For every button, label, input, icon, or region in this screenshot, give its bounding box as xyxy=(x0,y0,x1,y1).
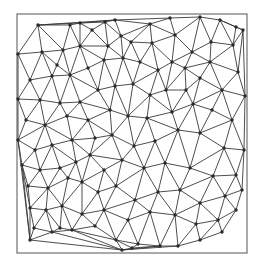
mesh-edge xyxy=(67,116,88,120)
mesh-vertex xyxy=(126,114,129,117)
mesh-edge xyxy=(60,228,72,230)
mesh-edge xyxy=(172,104,193,112)
mesh-edge xyxy=(35,150,40,170)
mesh-vertex xyxy=(198,131,201,134)
mesh-vertex xyxy=(231,43,234,46)
mesh-edge xyxy=(133,84,150,95)
mesh-edge xyxy=(35,145,52,150)
mesh-vertex xyxy=(32,226,35,229)
mesh-vertex xyxy=(78,44,81,47)
mesh-vertex xyxy=(170,60,173,63)
mesh-vertex xyxy=(28,78,31,81)
mesh-edge xyxy=(22,165,40,170)
mesh-edge xyxy=(30,228,34,240)
mesh-vertex xyxy=(60,204,63,207)
mesh-edge xyxy=(236,190,242,210)
mesh-edge xyxy=(115,84,133,86)
mesh-edge xyxy=(76,162,82,182)
mesh-edge xyxy=(193,90,222,104)
mesh-vertex xyxy=(68,73,71,76)
mesh-edge xyxy=(193,78,200,104)
mesh-edge xyxy=(30,232,52,240)
mesh-edge xyxy=(210,45,233,62)
mesh-edge xyxy=(222,90,245,96)
mesh-edge xyxy=(128,212,150,220)
mesh-edge xyxy=(178,240,200,246)
mesh-edge xyxy=(46,188,48,210)
mesh-vertex xyxy=(184,88,187,91)
mesh-edge xyxy=(18,120,26,140)
mesh-edge xyxy=(104,160,122,170)
mesh-edge xyxy=(82,192,98,214)
mesh-edge xyxy=(166,68,185,90)
mesh-vertex xyxy=(243,94,246,97)
mesh-edge xyxy=(128,95,150,116)
mesh-edge xyxy=(175,215,196,224)
mesh-vertex xyxy=(50,143,53,146)
mesh-edge xyxy=(210,62,238,72)
mesh-edge xyxy=(63,25,70,50)
mesh-edge xyxy=(123,58,140,62)
mesh-vertex xyxy=(58,166,61,169)
mesh-vertex xyxy=(86,66,89,69)
mesh-edge xyxy=(150,212,160,246)
mesh-edge xyxy=(178,130,190,168)
mesh-vertex xyxy=(164,88,167,91)
mesh-vertex xyxy=(188,166,191,169)
mesh-edge xyxy=(80,46,104,60)
mesh-edge xyxy=(134,141,155,146)
mesh-edge xyxy=(144,168,158,192)
mesh-edge xyxy=(116,160,122,186)
mesh-vertex xyxy=(148,22,151,25)
mesh-vertex xyxy=(156,68,159,71)
mesh-edge xyxy=(28,170,40,186)
mesh-edge xyxy=(138,212,150,244)
mesh-edge xyxy=(116,220,128,240)
mesh-edge xyxy=(123,42,131,58)
mesh-vertex xyxy=(223,194,226,197)
mesh-edge xyxy=(200,176,213,203)
mesh-vertex xyxy=(142,166,145,169)
mesh-edge xyxy=(60,206,62,228)
mesh-vertex xyxy=(121,56,124,59)
mesh-edge xyxy=(138,244,160,246)
mesh-edge xyxy=(224,148,236,175)
mesh-vertex xyxy=(126,218,129,221)
mesh-edge xyxy=(104,58,123,60)
mesh-edge xyxy=(147,118,155,141)
mesh-edge xyxy=(18,52,42,54)
mesh-edge xyxy=(40,170,48,188)
mesh-edge xyxy=(180,190,200,203)
mesh-edge xyxy=(30,208,46,210)
mesh-vertex xyxy=(211,174,214,177)
mesh-edge xyxy=(185,68,186,90)
mesh-edge xyxy=(35,125,45,150)
mesh-edge xyxy=(110,86,115,110)
mesh-edge xyxy=(144,163,165,168)
mesh-edge xyxy=(57,50,63,65)
mesh-edge xyxy=(92,22,105,30)
mesh-edge xyxy=(52,145,60,168)
mesh-edge xyxy=(18,125,45,140)
mesh-vertex xyxy=(40,50,43,53)
mesh-edge xyxy=(144,141,155,168)
mesh-edge xyxy=(18,140,35,150)
mesh-vertex xyxy=(96,190,99,193)
mesh-edge xyxy=(18,54,30,80)
mesh-edge xyxy=(98,60,104,90)
mesh-vertex xyxy=(114,184,117,187)
mesh-vertex xyxy=(194,222,197,225)
mesh-edge xyxy=(88,60,104,68)
mesh-edge xyxy=(80,30,92,46)
mesh-edge xyxy=(26,100,40,120)
mesh-vertex xyxy=(108,108,111,111)
mesh-edge xyxy=(170,17,200,18)
mesh-vertex xyxy=(120,158,123,161)
mesh-edge xyxy=(60,102,80,103)
mesh-edge xyxy=(186,90,193,104)
mesh-vertex xyxy=(80,180,83,183)
mesh-vertex xyxy=(198,201,201,204)
mesh-edge xyxy=(110,110,112,135)
mesh-vertex xyxy=(222,146,225,149)
mesh-edge xyxy=(67,102,80,116)
